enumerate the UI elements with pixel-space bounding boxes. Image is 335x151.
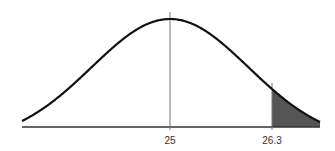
normal-curve-chart (0, 0, 335, 151)
tick-label-cutoff: 26.3 (262, 135, 281, 146)
tick-label-mean: 25 (164, 135, 175, 146)
